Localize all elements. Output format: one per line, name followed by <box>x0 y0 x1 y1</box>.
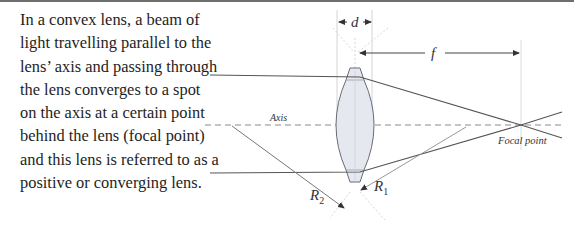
axis-label: Axis <box>269 112 287 123</box>
focal-point-label: Focal point <box>497 135 548 146</box>
radius1-label: R1 <box>373 178 388 197</box>
thickness-label: d <box>351 14 359 30</box>
light-rays <box>210 75 562 173</box>
radius2-label: R2 <box>309 187 324 206</box>
convex-lens-diagram: d f Axis R2 R1 Focal point <box>0 0 574 230</box>
focal-length-label: f <box>431 45 437 61</box>
